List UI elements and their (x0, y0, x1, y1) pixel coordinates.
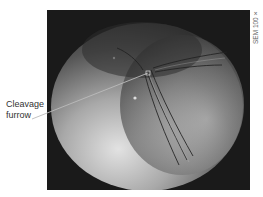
callout-line-1: Cleavage (6, 99, 50, 110)
callout-line-2: furrow (6, 110, 50, 121)
sem-image-panel (47, 10, 250, 190)
cleavage-furrow-label: Cleavage furrow (6, 99, 50, 121)
cell-cleavage-micrograph (47, 10, 250, 190)
micrograph-figure: SEM 100× Cleavage furrow (0, 0, 263, 197)
magnification-label: SEM 100× (251, 10, 263, 44)
